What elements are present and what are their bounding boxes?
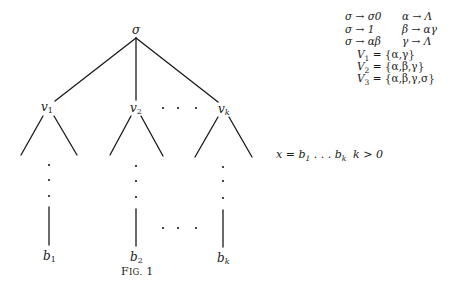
edge-v1-left: [21, 116, 43, 155]
edge-v2-left: [110, 116, 131, 155]
bk-sub: k: [342, 154, 347, 163]
vdot: [135, 196, 137, 198]
set-value: = {α,β,γ}: [373, 60, 425, 72]
vdot: [222, 166, 224, 168]
rule-row: σ → 1 β → αγ: [345, 23, 437, 36]
leaf-b1-label: b1: [43, 250, 56, 266]
rule-right: β → αγ: [402, 23, 437, 36]
node-vk-sub: k: [225, 108, 230, 117]
node-v1-sub: 1: [48, 106, 53, 115]
rule-left: σ → 1: [345, 23, 402, 36]
vdot: [135, 180, 137, 182]
grammar-rules: σ → σ0 α → Λ σ → 1 β → αγ σ → αβ γ → Λ: [345, 10, 437, 48]
set-value: = {α,β,γ,σ}: [373, 72, 435, 84]
vdot: [135, 165, 137, 167]
edge-v2-right: [141, 116, 163, 156]
vdot: [222, 180, 224, 182]
edge-root-vk: [136, 38, 218, 102]
leaf-bk-sub: k: [225, 257, 230, 266]
leaf-b2-symbol: b: [130, 250, 138, 264]
leaf-b1-sub: 1: [51, 255, 56, 264]
string-definition: x = b1 . . . bk: [276, 148, 346, 163]
set-sub: 3: [365, 78, 370, 87]
caption-smallcaps: IG.: [129, 267, 142, 277]
leaf-bk-symbol: b: [217, 251, 225, 265]
x-equals: x = b: [276, 148, 305, 161]
figure-caption: FIG. 1: [121, 265, 154, 278]
hdot: [195, 227, 197, 229]
k-condition: k > 0: [353, 148, 383, 161]
ellipsis-b: . . . b: [310, 148, 342, 161]
edge-root-v1: [55, 38, 136, 101]
hdot: [162, 227, 164, 229]
node-v2-sub: 2: [137, 107, 142, 116]
hdot: [177, 107, 179, 109]
leaf-b2-sub: 2: [138, 256, 143, 265]
vdot: [48, 179, 50, 181]
edge-vk-left: [195, 117, 218, 157]
root-label: σ: [132, 24, 140, 36]
rule-right: γ → Λ: [402, 35, 431, 48]
caption-prefix: F: [121, 265, 129, 278]
caption-number: 1: [146, 265, 153, 278]
hdot: [195, 107, 197, 109]
edge-v1-right: [54, 116, 77, 155]
node-vk-symbol: v: [218, 102, 225, 116]
leaf-bk-label: bk: [217, 252, 230, 268]
set-value: = {α,γ}: [373, 48, 415, 60]
vdot: [48, 195, 50, 197]
node-v2-label: v2: [130, 102, 142, 118]
root-symbol: σ: [132, 23, 140, 37]
hdot: [177, 227, 179, 229]
rule-right: α → Λ: [402, 10, 432, 23]
rule-left: σ → σ0: [345, 10, 402, 23]
set-v3: V3 = {α,β,γ,σ}: [357, 72, 435, 87]
set-name: V: [357, 60, 365, 72]
edge-vk-right: [229, 117, 252, 157]
rule-left: σ → αβ: [345, 35, 402, 48]
hdot: [162, 107, 164, 109]
node-v1-label: v1: [41, 101, 53, 117]
set-name: V: [357, 48, 365, 60]
node-v2-symbol: v: [130, 101, 137, 115]
vdot: [222, 197, 224, 199]
vdot: [48, 164, 50, 166]
leaf-b1-symbol: b: [43, 249, 51, 263]
rule-row: σ → αβ γ → Λ: [345, 35, 437, 48]
set-name: V: [357, 72, 365, 84]
rule-row: σ → σ0 α → Λ: [345, 10, 437, 23]
node-v1-symbol: v: [41, 100, 48, 114]
node-vk-label: vk: [218, 103, 230, 119]
